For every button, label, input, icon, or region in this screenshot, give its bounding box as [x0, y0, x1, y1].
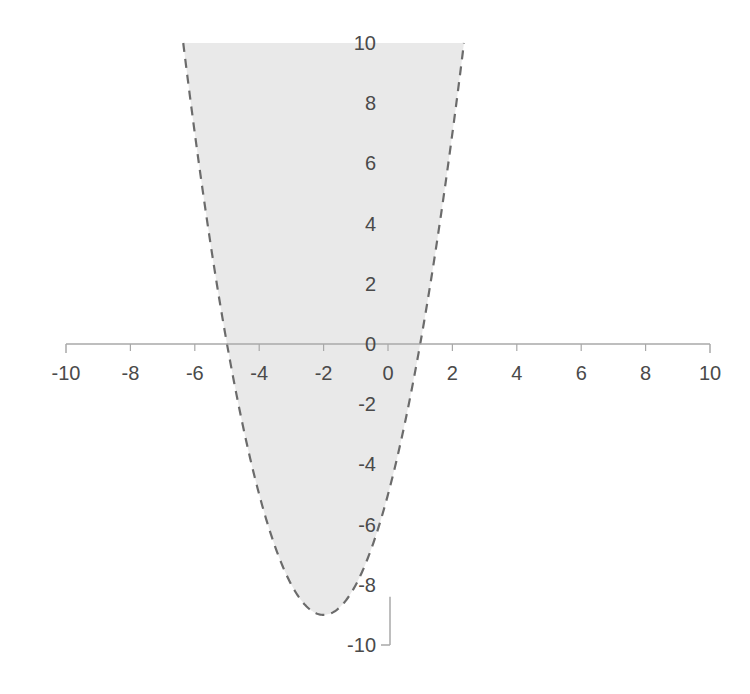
x-tick-label: 0 — [382, 363, 393, 383]
x-tick-label: -2 — [315, 363, 333, 383]
y-tick-label: -6 — [358, 515, 376, 535]
y-tick-label: -4 — [358, 454, 376, 474]
y-tick-label: 8 — [365, 93, 376, 113]
x-tick-label: -4 — [250, 363, 268, 383]
chart-canvas: -10-8-6-4-20246810 1086420-2-4-6-8-10 — [0, 0, 750, 694]
y-tick-label: 6 — [365, 153, 376, 173]
x-tick-label: -8 — [121, 363, 139, 383]
x-tick-label: 4 — [511, 363, 522, 383]
x-tick-label: -6 — [186, 363, 204, 383]
y-tick-label: 0 — [365, 334, 376, 354]
x-tick-label: 6 — [576, 363, 587, 383]
y-tick-label: 4 — [365, 214, 376, 234]
x-tick-label: 10 — [699, 363, 721, 383]
y-tick-label: -10 — [347, 635, 376, 655]
y-tick-label: -8 — [358, 575, 376, 595]
y-tick-label: -2 — [358, 394, 376, 414]
x-tick-label: 8 — [640, 363, 651, 383]
y-tick-label: 2 — [365, 274, 376, 294]
x-tick-label: 2 — [447, 363, 458, 383]
y-tick-label: 10 — [354, 33, 376, 53]
x-tick-label: -10 — [52, 363, 81, 383]
